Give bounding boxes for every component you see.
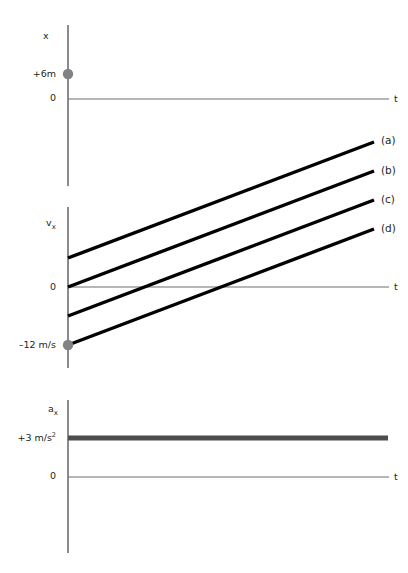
acceleration-tick-zero: 0	[8, 471, 56, 481]
acceleration-tick-plus3-exponent: 2	[52, 431, 56, 439]
velocity-curve-label-c: (c)	[381, 194, 395, 205]
acceleration-y-axis-label-sub: x	[54, 409, 58, 417]
velocity-curve-label-a: (a)	[381, 135, 396, 146]
acceleration-tick-plus3-text: +3 m/s	[17, 432, 51, 443]
position-y-axis-label: x	[43, 31, 49, 41]
velocity-curve-label-b: (b)	[381, 165, 396, 176]
velocity-y-axis-label: vx	[46, 218, 56, 231]
position-tick-zero: 0	[8, 93, 56, 103]
velocity-line-b	[68, 171, 374, 287]
physics-motion-figure: x +6m 0 t vx 0 –12 m/s t (a) (b) (c) (d)…	[0, 0, 408, 573]
position-graph-panel	[63, 25, 389, 186]
acceleration-graph-panel	[68, 400, 389, 553]
acceleration-t-axis-label: t	[394, 472, 398, 482]
velocity-line-c	[68, 200, 374, 316]
figure-canvas	[0, 0, 408, 573]
velocity-initial-marker	[63, 340, 73, 350]
acceleration-y-axis-label: ax	[48, 404, 58, 417]
velocity-curve-label-d: (d)	[381, 223, 396, 234]
velocity-tick-minus12: –12 m/s	[2, 340, 56, 350]
velocity-graph-panel	[63, 142, 389, 368]
position-tick-plus6m: +6m	[8, 69, 56, 79]
velocity-tick-zero: 0	[8, 282, 56, 292]
position-initial-marker	[63, 69, 73, 79]
velocity-y-axis-label-sub: x	[52, 223, 56, 231]
velocity-line-a	[68, 142, 374, 258]
velocity-t-axis-label: t	[394, 282, 398, 292]
acceleration-tick-plus3: +3 m/s2	[0, 432, 56, 443]
position-t-axis-label: t	[394, 94, 398, 104]
